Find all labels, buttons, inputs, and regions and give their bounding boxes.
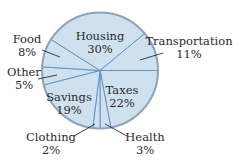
label-savings-name: Savings bbox=[46, 90, 92, 104]
label-health-value: 3% bbox=[136, 143, 154, 157]
label-food-name: Food bbox=[13, 32, 42, 46]
label-food: Food 8% bbox=[13, 32, 42, 59]
label-health-name: Health bbox=[125, 130, 165, 144]
label-taxes-value: 22% bbox=[109, 96, 135, 110]
label-housing-name: Housing bbox=[76, 29, 125, 43]
label-health: Health 3% bbox=[125, 130, 165, 157]
label-taxes-name: Taxes bbox=[106, 83, 139, 97]
label-other: Other 5% bbox=[7, 65, 41, 92]
label-taxes: Taxes 22% bbox=[106, 83, 139, 110]
label-transportation-value: 11% bbox=[176, 47, 202, 61]
label-clothing-name: Clothing bbox=[26, 130, 77, 144]
label-other-value: 5% bbox=[15, 78, 33, 92]
label-other-name: Other bbox=[7, 65, 41, 79]
label-clothing-value: 2% bbox=[42, 143, 60, 157]
label-savings-value: 19% bbox=[56, 103, 82, 117]
pie-chart: Housing 30% Taxes 22% Savings 19% Food 8… bbox=[0, 0, 239, 168]
label-transportation: Transportation 11% bbox=[145, 34, 233, 61]
label-housing-value: 30% bbox=[87, 42, 113, 56]
label-food-value: 8% bbox=[18, 45, 36, 59]
label-clothing: Clothing 2% bbox=[26, 130, 77, 157]
label-transportation-name: Transportation bbox=[145, 34, 233, 48]
